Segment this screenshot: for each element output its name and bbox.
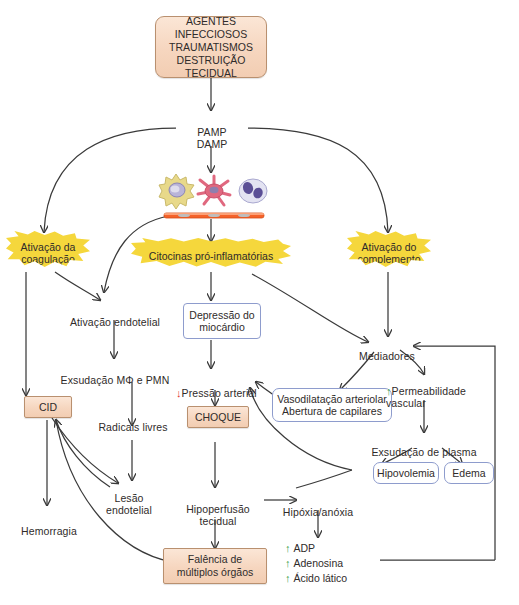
cid-label: CID bbox=[39, 401, 57, 414]
exudation-label: Exsudação MΦ e PMN bbox=[58, 361, 172, 386]
trigger-label: AGENTES INFECCIOSOS TRAUMATISMOS DESTRUI… bbox=[156, 15, 266, 80]
endothelial-activation-label: Ativação endotelial bbox=[62, 303, 168, 328]
immune-cell-illustrations bbox=[158, 170, 270, 222]
burst-cytokines-label: Citocinas pró-inflamatórias bbox=[149, 250, 273, 263]
myocardial-depression-label: Depressão do miocárdio bbox=[189, 309, 254, 334]
vasodilation-label: Vasodilatação arteriolar Abertura de cap… bbox=[277, 393, 387, 418]
shock-label: CHOQUE bbox=[195, 411, 241, 424]
burst-coagulation-label: Ativação da coagulação bbox=[21, 241, 76, 266]
list-item: ↑Adenosina bbox=[285, 556, 381, 571]
edema-box: Edema bbox=[444, 462, 494, 484]
list-item: ↑ADP bbox=[285, 541, 381, 556]
tissue-hypoperfusion-label: Hipoperfusão tecidual bbox=[174, 490, 262, 528]
mediators-label: Mediadores bbox=[354, 337, 420, 362]
endothelial-injury-label: Lesão endotelial bbox=[98, 479, 160, 517]
edema-label: Edema bbox=[452, 467, 485, 480]
neutrophil-icon bbox=[239, 179, 267, 203]
macrophage-icon bbox=[159, 174, 194, 209]
hypovolemia-label: Hipovolemia bbox=[377, 467, 435, 480]
hemorrhage-label: Hemorragia bbox=[12, 512, 86, 537]
myocardial-depression-box: Depressão do miocárdio bbox=[183, 303, 261, 339]
diagram-canvas: AGENTES INFECCIOSOS TRAUMATISMOS DESTRUI… bbox=[0, 0, 519, 605]
vascular-permeability-label: ↑Permeabilidade vascular bbox=[386, 372, 492, 410]
hypoxia-anoxia-label: Hipóxia/anóxia bbox=[280, 493, 356, 518]
increase-arrow-icon: ↑ bbox=[285, 543, 291, 553]
increase-arrow-icon: ↑ bbox=[285, 558, 291, 568]
membrane-bar-icon bbox=[164, 213, 264, 218]
hypovolemia-box: Hipovolemia bbox=[373, 462, 439, 484]
multiple-organ-failure-label: Falência de múltiplos órgãos bbox=[177, 553, 253, 579]
multiple-organ-failure-box: Falência de múltiplos órgãos bbox=[163, 548, 267, 584]
metabolite-list: ↑ADP ↑Adenosina ↑Ácido lático bbox=[285, 541, 381, 586]
increase-arrow-icon: ↑ bbox=[285, 573, 291, 583]
free-radicals-label: Radicais livres bbox=[88, 408, 178, 433]
vasodilation-box: Vasodilatação arteriolar Abertura de cap… bbox=[272, 388, 392, 422]
shock-box: CHOQUE bbox=[187, 406, 249, 428]
trigger-box: AGENTES INFECCIOSOS TRAUMATISMOS DESTRUI… bbox=[155, 16, 267, 78]
pamp-damp-label: PAMP DAMP bbox=[176, 113, 248, 151]
plasma-exudation-label: Exsudação de plasma bbox=[368, 433, 480, 458]
cid-box: CID bbox=[24, 396, 72, 418]
arterial-pressure-label: ↓Pressão arterial bbox=[176, 374, 268, 399]
list-item: ↑Ácido lático bbox=[285, 571, 381, 586]
